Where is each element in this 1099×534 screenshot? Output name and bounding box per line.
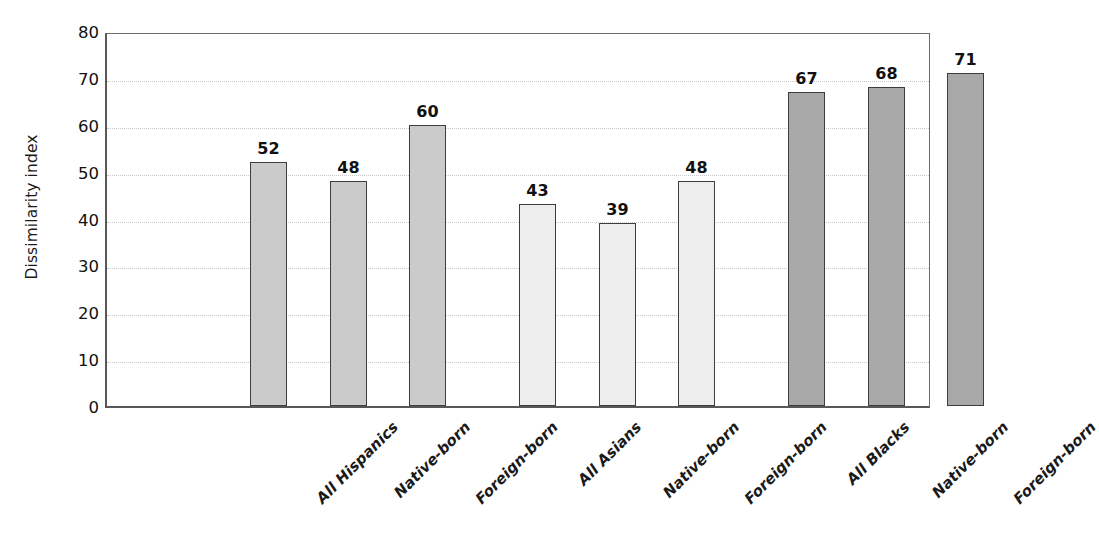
x-tick-label: Native-born — [390, 418, 474, 502]
bar-value-label: 52 — [238, 141, 299, 157]
x-tick-label: Foreign-born — [740, 418, 830, 508]
x-tick-label: All Hispanics — [312, 418, 401, 507]
bar-value-label: 48 — [318, 160, 379, 176]
bar-value-label: 48 — [666, 160, 727, 176]
y-tick-label: 50 — [53, 165, 99, 182]
bar-value-label: 39 — [587, 202, 648, 218]
x-tick-label: Native-born — [659, 418, 743, 502]
y-tick-label: 60 — [53, 119, 99, 136]
y-tick-label: 70 — [53, 72, 99, 89]
y-tick-label: 0 — [53, 400, 99, 417]
bar-value-label: 67 — [776, 71, 837, 87]
plot-area: 524860433948676871 — [105, 33, 930, 408]
bar — [599, 223, 636, 406]
y-tick-label: 20 — [53, 306, 99, 323]
x-axis-tick-labels: All HispanicsNative-bornForeign-bornAll … — [105, 408, 930, 534]
bar-value-label: 71 — [935, 52, 996, 68]
x-tick-label: All Asians — [574, 418, 645, 489]
y-tick-label: 80 — [53, 25, 99, 42]
bar — [678, 181, 715, 406]
bar-value-label: 60 — [397, 104, 458, 120]
y-axis-title: Dissimilarity index — [23, 57, 41, 357]
y-tick-label: 10 — [53, 353, 99, 370]
y-tick-label: 40 — [53, 212, 99, 229]
x-tick-label: All Blacks — [842, 418, 912, 488]
bar — [519, 204, 556, 406]
y-axis-tick-labels: 01020304050607080 — [49, 33, 99, 408]
bar — [409, 125, 446, 406]
bar — [868, 87, 905, 406]
y-tick-label: 30 — [53, 259, 99, 276]
bar — [330, 181, 367, 406]
x-tick-label: Foreign-born — [471, 418, 561, 508]
x-tick-label: Foreign-born — [1009, 418, 1099, 508]
bar — [788, 92, 825, 406]
bar-value-label: 43 — [507, 183, 568, 199]
bar — [250, 162, 287, 406]
bar-value-label: 68 — [856, 66, 917, 82]
bar — [947, 73, 984, 406]
x-tick-label: Native-born — [928, 418, 1012, 502]
